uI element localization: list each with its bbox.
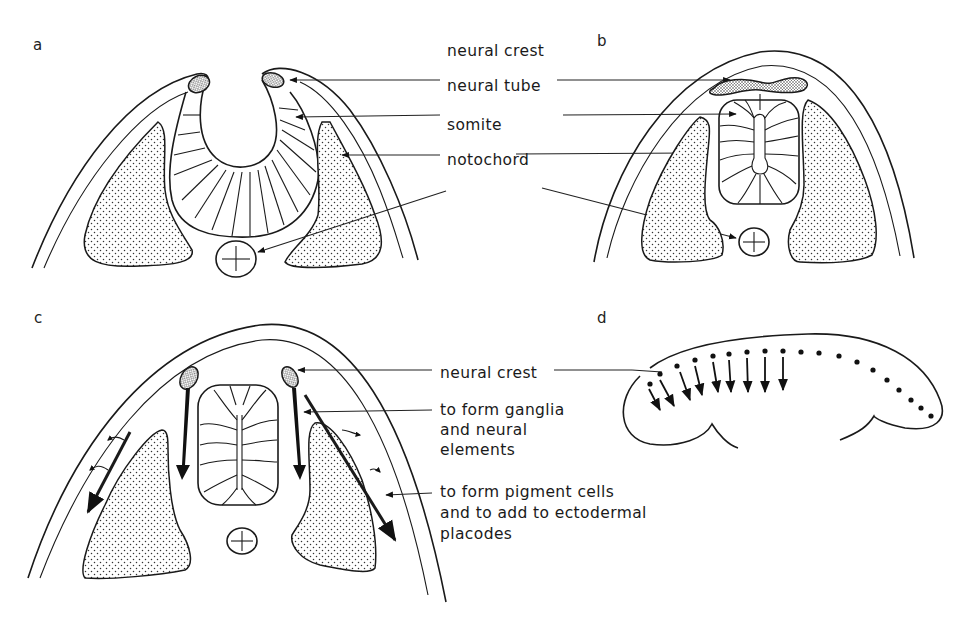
arrow-pigment-right-branch2 [370,469,380,472]
leader-b-neural-tube [563,114,736,115]
neural-crest-right-c [278,364,301,390]
label-pigment-2: and to add to ectodermal [440,504,647,522]
neural-crest-dots [647,348,933,418]
label-neural-crest: neural crest [447,42,544,60]
somite-left-c [83,430,190,578]
label-ganglia-2: and neural [440,421,527,439]
arrow-pigment-left-branch1 [108,437,124,440]
label-ganglia-1: to form ganglia [440,401,565,419]
migration-arrows-d [649,357,783,410]
somite-right-b [788,100,876,263]
neural-groove [200,80,276,167]
notochord-c [227,528,257,554]
panel-letter-a: a [33,36,42,54]
leader-c-ganglia [304,410,432,412]
leader-d-neural-crest-2 [632,370,662,372]
neural-crest-diagram: a [0,0,973,629]
panel-a: a [32,36,418,277]
panel-letter-c: c [34,309,42,327]
panel-d: d [597,309,942,448]
leader-c-pigment [386,493,432,495]
label-ganglia-3: elements [440,441,515,459]
neural-tube-cells-b [720,94,798,204]
somite-right [285,122,381,268]
neural-tube-cells-c [200,386,277,505]
neural-plate-outer [170,92,319,237]
notochord [216,241,256,277]
arrow-ganglia-left [176,388,190,480]
label-somite: somite [447,116,502,134]
neural-canal-b [752,114,768,174]
somite-left-b [642,117,723,262]
label-pigment-1: to form pigment cells [440,483,614,501]
notochord-b [739,228,769,256]
embryo-outline [650,334,942,440]
label-pigment-3: placodes [440,525,512,543]
neural-plate-cells [174,108,316,236]
arrow-ganglia-right [292,388,306,480]
panel-b: b [594,32,914,263]
panel-letter-b: b [597,32,607,50]
somite-right-c [292,423,376,572]
leader-b-somite [516,153,690,154]
neural-tube-b [719,100,799,204]
panel-letter-d: d [597,309,607,327]
label-neural-crest-c: neural crest [440,364,537,382]
leader-a-neural-tube [296,115,440,117]
panel-c: c [28,309,446,602]
arrow-pigment-right-branch1 [342,430,360,435]
embryo-head [623,376,738,448]
label-neural-tube: neural tube [447,77,541,95]
